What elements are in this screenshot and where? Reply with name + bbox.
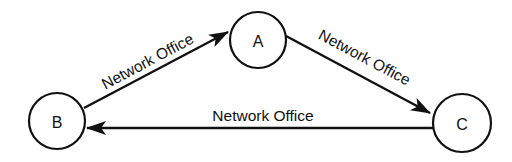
edge-a-to-c: Network Office [286, 26, 430, 113]
node-a-label: A [253, 33, 264, 50]
edge-b-to-a: Network Office [84, 30, 228, 108]
edge-label-c-to-b: Network Office [212, 107, 313, 124]
node-c-label: C [456, 116, 468, 133]
node-a: A [230, 12, 286, 68]
edge-c-to-b: Network Office [87, 107, 433, 128]
node-b: B [29, 93, 85, 149]
node-c: C [433, 94, 491, 152]
node-b-label: B [52, 114, 63, 131]
network-office-diagram: Network Office Network Office Network Of… [0, 0, 512, 162]
edge-label-b-to-a: Network Office [99, 30, 196, 93]
arrow-b-to-a-icon [84, 32, 228, 108]
